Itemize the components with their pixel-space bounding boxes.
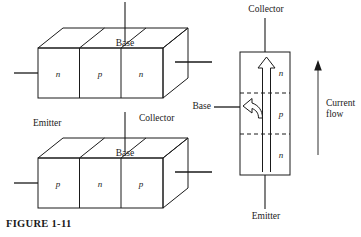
base-current-arrow [243,99,263,119]
npn-base-label: Base [116,38,134,49]
npn-block-drawing [14,2,212,98]
current-flow-indicator [314,60,322,155]
current-flow-label-line1: Current [326,98,355,109]
npn-top-slant-1 [80,28,105,48]
npn-right-face [163,28,188,98]
npn-region-label-3: n [139,69,144,80]
pnp-base-label: Base [116,148,134,159]
vertical-base-label: Base [193,101,211,112]
npn-region-label-1: n [56,69,61,80]
vertical-collector-label: Collector [248,4,283,15]
pnp-region-label-1: p [56,179,61,190]
pnp-top-slant-1 [80,138,105,158]
pnp-emitter-label: Emitter [33,118,62,129]
figure-1-11: Base n p n Emitter Collector Base p n p … [0,0,361,237]
current-flow-arrowhead [314,60,322,71]
pnp-right-face [163,138,188,208]
npn-region-label-2: p [98,69,103,80]
pnp-collector-label: Collector [139,113,174,124]
pnp-region-label-3: p [139,179,144,190]
vertical-region-label-3: n [279,150,284,161]
pnp-top-face [38,138,188,158]
pnp-region-label-2: n [98,179,103,190]
vertical-region-label-2: p [279,109,284,120]
npn-top-face [38,28,188,48]
main-current-arrow [258,57,275,172]
current-flow-label-line2: flow [326,109,343,120]
vertical-emitter-label: Emitter [252,211,281,222]
vertical-region-label-1: n [279,68,284,79]
figure-caption: FIGURE 1-11 [6,218,71,230]
